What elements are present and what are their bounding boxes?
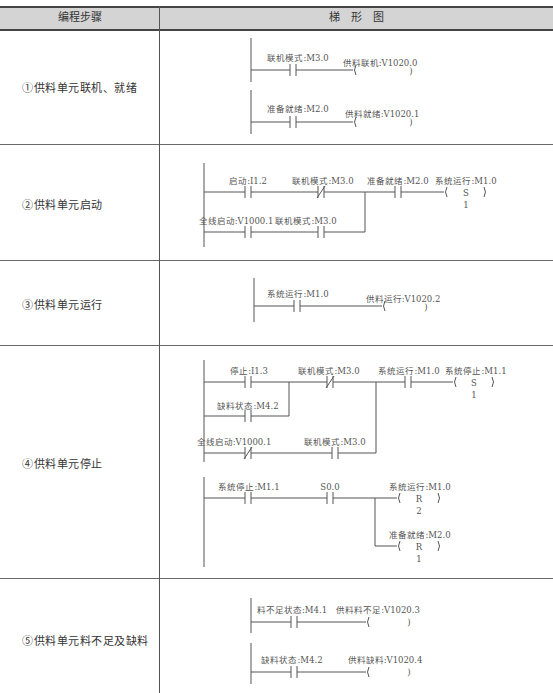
coil-count: 1 (416, 554, 421, 564)
coil-operation: R (416, 542, 422, 552)
coil-label: 供料运行:V1020.2 (366, 294, 441, 304)
contact-label: 联机模式:M3.0 (275, 216, 336, 226)
coil-label: 供料料不足:V1020.3 (336, 605, 420, 615)
coil-label: 供料就绪:V1020.1 (345, 109, 420, 119)
contact-label: 联机模式:M3.0 (292, 176, 353, 186)
coil-label: 供料联机:V1020.0 (343, 58, 418, 68)
coil-close-paren: ) (409, 66, 412, 76)
contact-label: 全线启动:V1000.1 (199, 216, 274, 226)
contact-label: 系统运行:M1.0 (267, 289, 328, 299)
coil-operation: R (416, 494, 422, 504)
coil-close-paren: ) (424, 302, 427, 312)
contact-label: 缺料状态:M4.2 (261, 655, 322, 665)
contact-label: 启动:I1.2 (229, 176, 267, 186)
ladder-diagrams: 联机模式:M3.0 供料联机:V1020.0 ) 准备就绪:M2.0 供料就绪:… (0, 0, 553, 693)
coil-label: 系统运行:M1.0 (389, 482, 450, 492)
contact-label: 缺料状态:M4.2 (217, 401, 278, 411)
contact-label: 停止:I1.3 (230, 366, 268, 376)
contact-label: 全线启动:V1000.1 (197, 437, 272, 447)
coil-label: 准备就绪:M2.0 (389, 530, 450, 540)
contact-label: 联机模式:M3.0 (304, 437, 365, 447)
contact-label: 准备就绪:M2.0 (267, 104, 328, 114)
coil-close-paren: ) (409, 117, 412, 127)
contact-label: 联机模式:M3.0 (267, 53, 328, 63)
contact-label: S0.0 (320, 482, 339, 492)
contact-label: 系统停止:M1.1 (218, 482, 279, 492)
contact-label: 联机模式:M3.0 (298, 366, 359, 376)
coil-count: 1 (463, 200, 468, 210)
coil-operation: S (471, 378, 477, 388)
contact-label: 料不足状态:M4.1 (257, 605, 327, 615)
coil-close-paren: ) (407, 667, 410, 677)
coil-label: 系统停止:M1.1 (445, 366, 506, 376)
coil-count: 2 (416, 506, 421, 516)
rung-5a (251, 598, 369, 633)
coil-count: 1 (471, 390, 476, 400)
coil-close-paren: ) (407, 617, 410, 627)
coil-operation: S (463, 188, 469, 198)
coil-label: 系统运行:M1.0 (435, 176, 496, 186)
contact-label: 系统运行:M1.0 (378, 366, 439, 376)
contact-label: 准备就绪:M2.0 (367, 176, 428, 186)
coil-label: 供料缺料:V1020.4 (348, 655, 423, 665)
